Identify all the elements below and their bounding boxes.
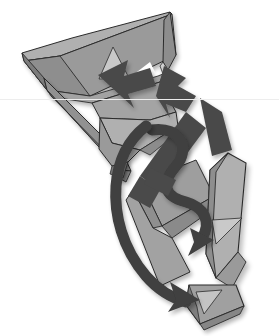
abstract-geometry-illustration xyxy=(0,0,279,336)
figure-canvas: Gray polygonal origami-like folded band … xyxy=(0,0,279,336)
right-long-panel-group xyxy=(206,153,246,288)
